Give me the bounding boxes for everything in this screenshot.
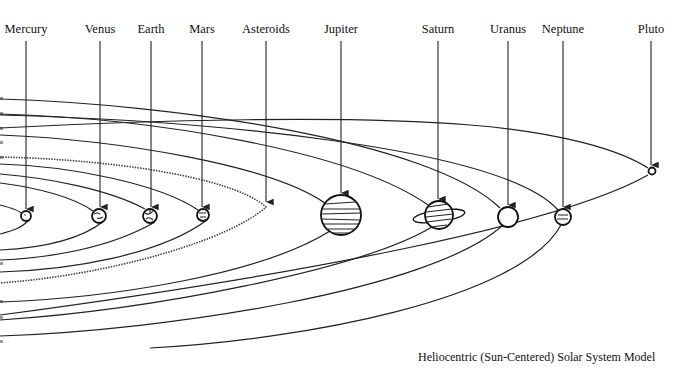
- orbit-left-ends: [0, 97, 3, 343]
- label-mercury: Mercury: [4, 22, 47, 37]
- label-uranus: Uranus: [490, 22, 526, 37]
- label-venus: Venus: [85, 22, 116, 37]
- planet-saturn: [412, 201, 465, 229]
- label-saturn: Saturn: [422, 22, 455, 37]
- label-earth: Earth: [137, 22, 164, 37]
- orbit-saturn: [0, 114, 432, 320]
- planet-mars: [197, 209, 209, 221]
- pointer-lines: [26, 41, 651, 209]
- planet-earth: [143, 209, 157, 223]
- orbit-diagram-svg: [0, 0, 697, 388]
- planet-pluto: [649, 168, 656, 175]
- asteroid-belt: [0, 157, 266, 283]
- label-pluto: Pluto: [638, 22, 664, 37]
- planet-uranus: [498, 207, 518, 227]
- solar-system-diagram: Mercury Venus Earth Mars Asteroids Jupit…: [0, 0, 697, 388]
- label-asteroids: Asteroids: [242, 22, 290, 37]
- diagram-caption: Heliocentric (Sun-Centered) Solar System…: [418, 350, 655, 365]
- label-neptune: Neptune: [542, 22, 584, 37]
- planet-venus: [92, 209, 106, 223]
- planet-mercury: [21, 211, 31, 221]
- label-mars: Mars: [189, 22, 215, 37]
- planet-jupiter: [321, 195, 361, 235]
- label-jupiter: Jupiter: [324, 22, 358, 37]
- planet-neptune: [555, 209, 571, 225]
- orbit-venus: [0, 183, 104, 250]
- orbit-neptune: [0, 115, 561, 348]
